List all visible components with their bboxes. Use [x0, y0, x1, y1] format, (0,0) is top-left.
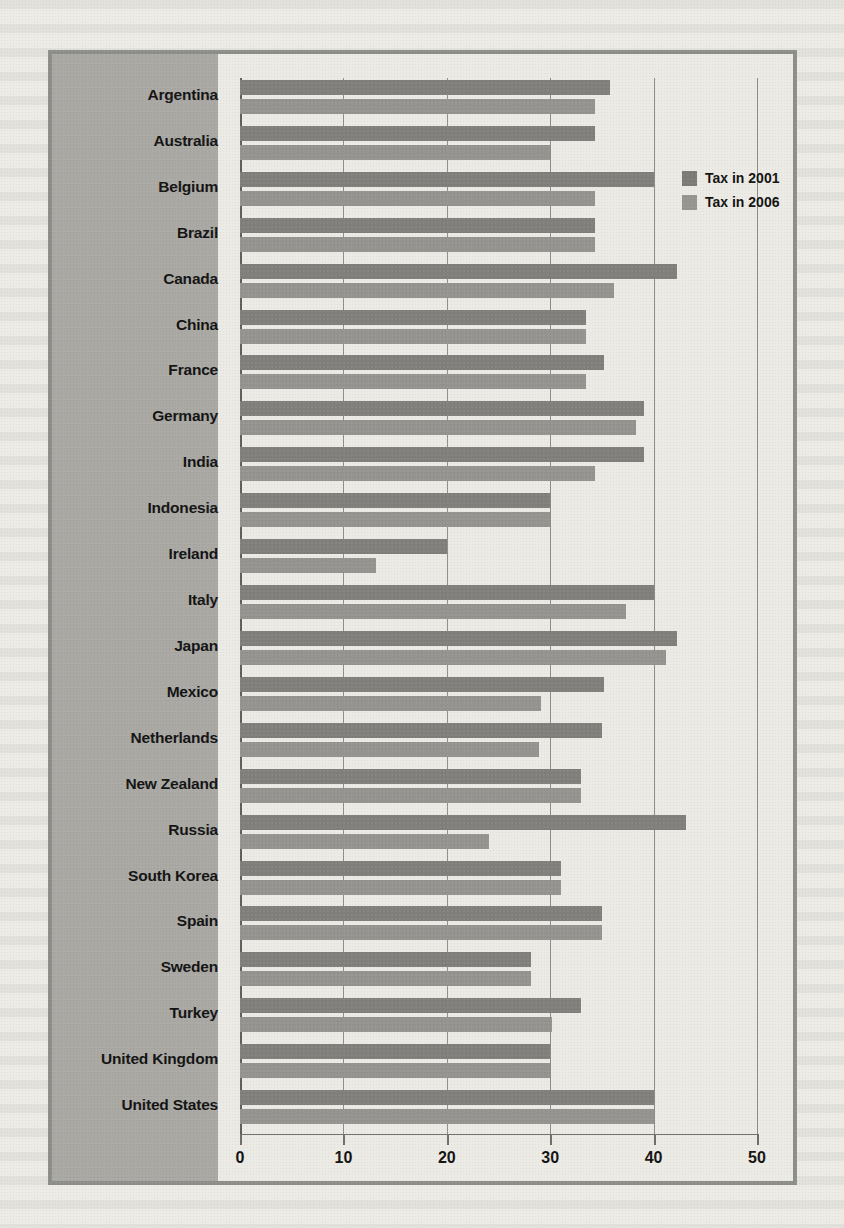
category-label: Indonesia [147, 499, 218, 517]
bar-2006 [240, 1109, 654, 1124]
bar-group: Brazil [240, 216, 757, 262]
bar-2006 [240, 788, 581, 803]
bar-2006 [240, 283, 614, 298]
bar-2001 [240, 493, 550, 508]
bar-group: China [240, 308, 757, 354]
legend-swatch-icon-2001 [682, 171, 697, 186]
bar-2006 [240, 466, 595, 481]
x-tick-40 [654, 1134, 656, 1145]
bar-2001 [240, 723, 602, 738]
category-label: United Kingdom [101, 1050, 218, 1068]
category-label: Sweden [161, 958, 218, 976]
bar-2006 [240, 650, 666, 665]
legend-item-2001: Tax in 2001 [682, 170, 779, 186]
x-tick-label-20: 20 [438, 1149, 456, 1167]
bar-group: Ireland [240, 537, 757, 583]
bar-2006 [240, 880, 561, 895]
plot-area: ArgentinaAustraliaBelgiumBrazilCanadaChi… [240, 78, 757, 1134]
bar-2006 [240, 971, 531, 986]
bar-group: Sweden [240, 950, 757, 996]
legend-label-2001: Tax in 2001 [705, 170, 779, 186]
bar-2001 [240, 906, 602, 921]
x-tick-10 [343, 1134, 345, 1145]
bar-2006 [240, 99, 595, 114]
legend-item-2006: Tax in 2006 [682, 194, 779, 210]
category-label: Australia [153, 132, 218, 150]
bar-2006 [240, 1063, 550, 1078]
bar-2006 [240, 145, 550, 160]
bar-2001 [240, 172, 654, 187]
bar-group: Australia [240, 124, 757, 170]
bar-2001 [240, 815, 686, 830]
bar-2001 [240, 677, 604, 692]
bar-2006 [240, 374, 586, 389]
bar-2006 [240, 834, 489, 849]
bar-2006 [240, 329, 586, 344]
bar-group: Turkey [240, 996, 757, 1042]
bar-group: United States [240, 1088, 757, 1134]
x-tick-label-0: 0 [236, 1149, 245, 1167]
x-tick-label-40: 40 [645, 1149, 663, 1167]
bar-2006 [240, 604, 626, 619]
bar-2001 [240, 264, 677, 279]
category-label: Russia [168, 821, 218, 839]
category-label: United States [122, 1096, 218, 1114]
bar-2001 [240, 769, 581, 784]
bar-2001 [240, 126, 595, 141]
bar-2006 [240, 237, 595, 252]
bar-2001 [240, 1090, 654, 1105]
category-label: Argentina [147, 86, 218, 104]
bar-group: India [240, 445, 757, 491]
bar-2001 [240, 401, 644, 416]
bar-2006 [240, 696, 541, 711]
x-tick-0 [240, 1134, 242, 1145]
bar-2001 [240, 447, 644, 462]
category-label: Canada [163, 270, 218, 288]
bar-2001 [240, 355, 604, 370]
category-label: Belgium [158, 178, 218, 196]
category-label: India [183, 453, 218, 471]
bar-2001 [240, 861, 561, 876]
category-label: South Korea [128, 867, 218, 885]
x-tick-30 [550, 1134, 552, 1145]
bar-2001 [240, 539, 447, 554]
x-tick-label-50: 50 [748, 1149, 766, 1167]
category-label: New Zealand [125, 775, 218, 793]
category-label: Ireland [169, 545, 218, 563]
legend-label-2006: Tax in 2006 [705, 194, 779, 210]
x-tick-20 [447, 1134, 449, 1145]
bar-2001 [240, 952, 531, 967]
bar-2001 [240, 1044, 550, 1059]
bar-group: France [240, 353, 757, 399]
bar-group: Spain [240, 904, 757, 950]
bar-group: Russia [240, 813, 757, 859]
category-label: Germany [152, 407, 218, 425]
bar-group: Belgium [240, 170, 757, 216]
bar-group: Mexico [240, 675, 757, 721]
bar-group: South Korea [240, 859, 757, 905]
category-label: Italy [188, 591, 218, 609]
category-label: Spain [177, 912, 218, 930]
category-label: Japan [174, 637, 218, 655]
category-label: France [168, 361, 218, 379]
bar-2001 [240, 631, 677, 646]
bar-2006 [240, 191, 595, 206]
gridline-50 [757, 78, 758, 1134]
bar-2001 [240, 585, 654, 600]
bar-group: New Zealand [240, 767, 757, 813]
bar-2006 [240, 512, 550, 527]
bar-rows: ArgentinaAustraliaBelgiumBrazilCanadaChi… [240, 78, 757, 1134]
bar-group: Italy [240, 583, 757, 629]
x-tick-50 [757, 1134, 759, 1145]
category-label: Netherlands [131, 729, 218, 747]
chart-figure: ArgentinaAustraliaBelgiumBrazilCanadaChi… [48, 50, 797, 1185]
bar-2006 [240, 1017, 552, 1032]
bar-group: Argentina [240, 78, 757, 124]
category-label: China [176, 316, 218, 334]
bar-group: Indonesia [240, 491, 757, 537]
legend-swatch-icon-2006 [682, 195, 697, 210]
bar-2006 [240, 558, 376, 573]
category-label: Mexico [167, 683, 218, 701]
bar-2006 [240, 420, 636, 435]
chart-legend: Tax in 2001 Tax in 2006 [682, 170, 779, 210]
